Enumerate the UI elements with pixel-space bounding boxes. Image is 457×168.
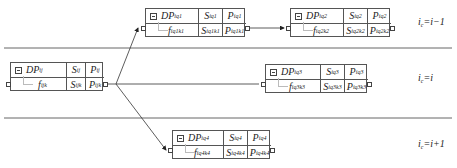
collapse-icon[interactable] — [295, 13, 302, 20]
f-cell: fiq2k2 — [291, 24, 343, 37]
edge-ij-iq1 — [116, 28, 138, 84]
p-cell: Pij — [85, 63, 104, 77]
collapse-icon[interactable] — [15, 67, 22, 74]
f-cell: fiq4k4 — [173, 146, 223, 159]
output-port-iq1[interactable] — [245, 26, 250, 31]
f-cell: fijk — [11, 78, 66, 91]
node-iq3[interactable]: DPiq3 Siq3 Piq3 fiq3k3 Siq3k3 Piq3k3 — [265, 64, 367, 93]
s-cell: Siq3 — [320, 65, 344, 79]
collapse-icon[interactable] — [270, 69, 277, 76]
dp-cell: DPiq2 — [291, 9, 343, 23]
node-iq2[interactable]: DPiq2 Siq2 Piq2 fiq2k2 Siq2k2 Piq2k2 — [290, 8, 390, 37]
s-cell: Siq1 — [198, 9, 222, 23]
output-port-iq3[interactable] — [367, 82, 372, 87]
p-cell: Piq1 — [222, 9, 246, 23]
input-port-ij[interactable] — [6, 82, 11, 87]
output-port-iq2[interactable] — [390, 26, 395, 31]
s2-cell: Siq1k1 — [198, 24, 222, 37]
p2-cell: Pijk — [85, 78, 104, 91]
s2-cell: Siq4k4 — [223, 146, 247, 159]
s2-cell: Siq3k3 — [320, 80, 344, 93]
collapse-icon[interactable] — [150, 13, 157, 20]
output-port-ij[interactable] — [103, 82, 108, 87]
p2-cell: Piq4k4 — [247, 146, 271, 159]
output-port-iq4[interactable] — [270, 148, 275, 153]
p-cell: Piq2 — [367, 9, 391, 23]
lane-label-next: ic=i+1 — [418, 138, 445, 150]
f-cell: fiq1k1 — [146, 24, 198, 37]
input-port-iq3[interactable] — [261, 82, 266, 87]
lane-label-prev: ic=i−1 — [418, 16, 445, 28]
node-iq4[interactable]: DPiq4 Siq4 Piq4 fiq4k4 Siq4k4 Piq4k4 — [172, 130, 270, 159]
p2-cell: Piq2k2 — [367, 24, 391, 37]
input-port-iq1[interactable] — [141, 26, 146, 31]
dp-cell: DPij — [11, 63, 66, 77]
p2-cell: Piq1k1 — [222, 24, 246, 37]
node-iq1[interactable]: DPiq1 Siq1 Piq1 fiq1k1 Siq1k1 Piq1k1 — [145, 8, 245, 37]
edge-ij-iq4 — [116, 84, 166, 150]
dp-cell: DPiq3 — [266, 65, 320, 79]
p-cell: Piq3 — [344, 65, 368, 79]
input-port-iq4[interactable] — [168, 148, 173, 153]
s-cell: Siq4 — [223, 131, 247, 145]
dp-cell: DPiq1 — [146, 9, 198, 23]
s-cell: Sij — [66, 63, 85, 77]
s2-cell: Siq2k2 — [343, 24, 367, 37]
s-cell: Siq2 — [343, 9, 367, 23]
node-ij[interactable]: DPij Sij Pij fijk Sijk Pijk — [10, 62, 103, 91]
input-port-iq2[interactable] — [286, 26, 291, 31]
f-cell: fiq3k3 — [266, 80, 320, 93]
dp-cell: DPiq4 — [173, 131, 223, 145]
p-cell: Piq4 — [247, 131, 271, 145]
lane-label-current: ic=i — [418, 72, 433, 84]
collapse-icon[interactable] — [177, 135, 184, 142]
s2-cell: Sijk — [66, 78, 85, 91]
p2-cell: Piq3k3 — [344, 80, 368, 93]
